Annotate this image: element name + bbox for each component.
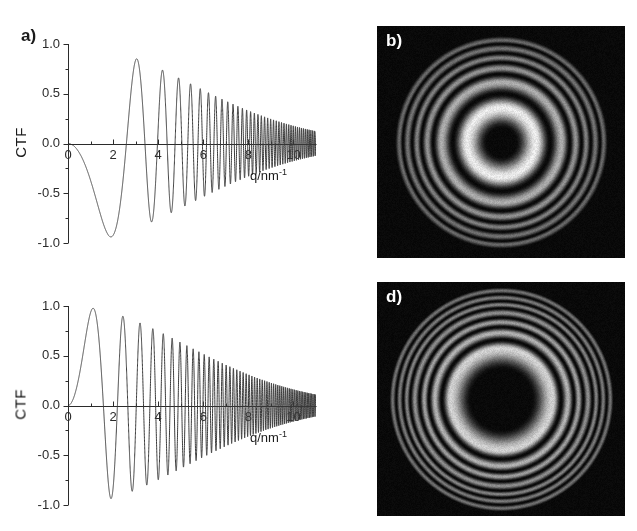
panel-c-x-axis-title: q/nm-1 [250, 430, 287, 445]
panel-a: a) CTF q/nm-1 [0, 0, 340, 265]
panel-a-plot-canvas [0, 0, 340, 265]
panel-a-label: a) [21, 27, 36, 44]
panel-c-y-axis-title: CTF [12, 384, 29, 424]
panel-b: b) [377, 26, 625, 258]
panel-a-x-axis-title: q/nm-1 [250, 168, 287, 183]
panel-c-plot-canvas [0, 265, 340, 531]
ctf-figure: a) CTF q/nm-1 c) CTF q/nm-1 b) d) [0, 0, 637, 531]
panel-a-y-axis-title: CTF [12, 122, 29, 162]
panel-b-power-spectrum [377, 26, 625, 258]
panel-c: c) CTF q/nm-1 [0, 265, 340, 531]
panel-d-power-spectrum [377, 282, 625, 516]
panel-b-label: b) [386, 32, 402, 49]
panel-d: d) [377, 282, 625, 516]
panel-d-label: d) [386, 288, 402, 305]
